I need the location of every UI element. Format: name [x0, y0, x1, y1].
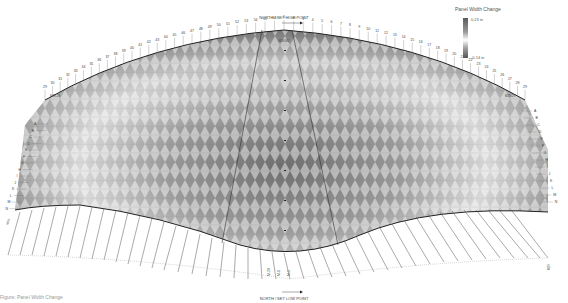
column-label: 54 — [254, 18, 258, 22]
column-label: 39 — [122, 49, 126, 53]
row-label-left: J — [14, 181, 16, 185]
column-label: 34 — [81, 65, 85, 69]
row-label-right: M — [553, 193, 556, 197]
row-label-right: B — [536, 116, 539, 120]
column-label: 5 — [321, 19, 323, 23]
column-label: 32 — [66, 73, 70, 77]
row-label-right: F — [542, 144, 544, 148]
column-label: 46 — [181, 31, 185, 35]
bottom-title: NORTH / SET LOW POINT — [260, 296, 309, 301]
top-center-label: M56-M1 — [278, 39, 289, 43]
column-label: 29 — [523, 85, 527, 89]
row-label-left: L — [10, 194, 12, 198]
row-label-right: C — [537, 123, 540, 127]
legend-min-label: -0.14 in — [471, 55, 484, 60]
column-label: 33 — [74, 69, 78, 73]
column-label: 53 — [244, 19, 248, 23]
row-label-left: N — [5, 207, 8, 211]
column-label: 18 — [436, 46, 440, 50]
column-label: 44 — [164, 35, 168, 39]
corner-label-bottom-right: M29 — [547, 264, 551, 270]
column-label: 16 — [419, 40, 423, 44]
row-label-right: K — [550, 179, 553, 183]
bottom-marker-2: M-1 — [277, 270, 281, 276]
bottom-marker-3: M-2 — [287, 270, 291, 276]
column-label: 51 — [226, 22, 230, 26]
column-label: 31 — [58, 77, 62, 81]
column-label: 41 — [138, 43, 142, 47]
row-label-right: A — [534, 109, 537, 113]
column-label: 7 — [340, 22, 342, 26]
row-label-right: I — [547, 165, 548, 169]
column-label: 9 — [358, 25, 360, 29]
column-label: 11 — [375, 29, 379, 33]
column-label: 49 — [208, 25, 212, 29]
column-label: 52 — [235, 20, 239, 24]
legend-title: Panel Width Change — [455, 6, 501, 12]
column-label: 19 — [444, 49, 448, 53]
row-label-right: L — [552, 186, 554, 190]
column-label: 43 — [155, 38, 159, 42]
column-label: 55 — [263, 17, 267, 21]
column-label: 27 — [508, 77, 512, 81]
column-label: 48 — [199, 27, 203, 31]
column-label: 56 — [273, 16, 277, 20]
column-label: 4 — [312, 18, 314, 22]
column-label: 45 — [173, 33, 177, 37]
column-label: 30 — [51, 81, 55, 85]
row-label-right: D — [539, 130, 542, 134]
column-label: 28 — [516, 81, 520, 85]
column-label: 35 — [89, 62, 93, 66]
column-label: 37 — [105, 55, 109, 59]
column-label: 13 — [393, 33, 397, 37]
corner-label-top-right: M29-29 — [505, 94, 516, 98]
row-label-left: M — [8, 200, 11, 204]
row-label-right: J — [548, 172, 550, 176]
column-label: 1 — [283, 15, 285, 19]
column-label: 10 — [366, 27, 370, 31]
column-label: 3 — [302, 17, 304, 21]
legend-color-bar — [463, 18, 468, 58]
row-label-left: G — [21, 161, 24, 165]
column-label: 6 — [331, 20, 333, 24]
column-label: 12 — [384, 31, 388, 35]
column-label: 50 — [217, 23, 221, 27]
column-label: 26 — [500, 73, 504, 77]
column-label: 25 — [492, 69, 496, 73]
column-label: 14 — [402, 35, 406, 39]
corner-label-top-left: M29-29 — [50, 94, 61, 98]
legend-max-label: 0.23 in — [471, 17, 483, 22]
row-label-right: G — [544, 151, 547, 155]
bottom-marker-1: M-29 — [267, 268, 271, 276]
column-label: 29 — [43, 85, 47, 89]
row-label-right: N — [555, 200, 558, 204]
column-label: 15 — [410, 38, 414, 42]
column-label: 47 — [190, 29, 194, 33]
corner-label-bottom-left: M29 — [5, 218, 11, 225]
row-label-left: K — [12, 187, 15, 191]
figure-caption: Figure: Panel Width Change — [0, 294, 63, 300]
column-label: 42 — [147, 40, 151, 44]
row-label-left: F — [23, 155, 25, 159]
row-label-left: I — [16, 174, 17, 178]
column-label: 40 — [130, 46, 134, 50]
legend: Panel Width Change 0.23 in -0.14 in — [455, 6, 555, 66]
column-label: 36 — [97, 58, 101, 62]
column-label: 2 — [293, 16, 295, 20]
column-label: 17 — [427, 43, 431, 47]
column-label: 38 — [114, 52, 118, 56]
column-label: 8 — [349, 23, 351, 27]
